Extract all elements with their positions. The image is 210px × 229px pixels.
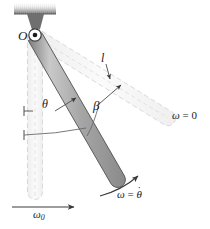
ceiling-hatch-fade [14,3,56,14]
omega-initial-subscript: 0 [41,213,45,222]
length-label: l [101,52,104,64]
omega-initial-label: ω0 [33,209,45,222]
omega-zero-label: ω = 0 [172,110,197,121]
pivot-label: O [18,29,27,42]
pivot-point [29,29,41,41]
omega-zero-symbol: ω [172,109,180,121]
omega-theta-equals: = [125,188,137,200]
theta-dot-group: ˙θ [137,189,142,200]
omega-zero-equation: = 0 [180,109,197,121]
pivot-center-dot [33,33,38,38]
theta-label: θ [42,98,48,110]
theta-dot-accent: ˙ [138,186,141,196]
beta-label: β [93,99,99,112]
omega-theta-symbol: ω [117,188,125,200]
omega-theta-label: ω = ˙θ [117,189,142,200]
pendulum-diagram: O l θ β ω0 ω = 0 ω = ˙θ [0,0,210,229]
omega-initial-symbol: ω [33,208,41,220]
